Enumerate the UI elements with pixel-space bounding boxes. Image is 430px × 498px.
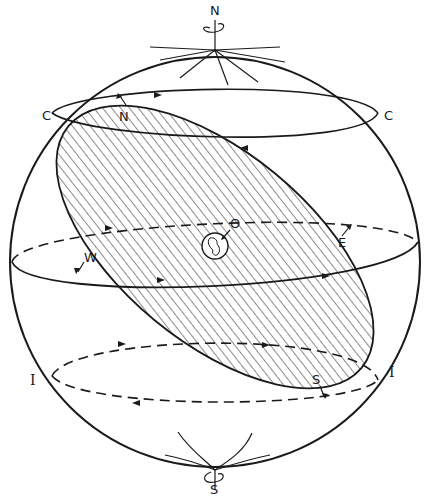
label-inclined-right: I (389, 364, 395, 380)
label-circle-right: C (384, 108, 393, 123)
north-pole-lines (150, 20, 285, 85)
label-circle-left: C (42, 108, 51, 123)
label-node-south: S (312, 372, 320, 387)
label-center: O (230, 216, 240, 231)
label-node-north: N (119, 109, 129, 124)
label-west: W (84, 250, 97, 265)
label-north-pole: N (210, 3, 220, 18)
label-south-pole: S (210, 482, 218, 497)
label-east: E (338, 235, 346, 250)
label-inclined-left: I (30, 372, 36, 388)
celestial-sphere-diagram: N S C C N O E W I I S (0, 0, 430, 498)
